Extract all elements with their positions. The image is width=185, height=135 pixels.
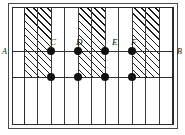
label-A: A xyxy=(2,47,7,56)
vertical-line-v5 xyxy=(91,8,92,124)
label-B: B xyxy=(177,47,182,56)
point-lower-3 xyxy=(101,73,109,81)
vertical-line-v6 xyxy=(105,8,106,124)
vertical-line-v11 xyxy=(172,8,173,124)
point-lower-2 xyxy=(74,73,82,81)
vertical-line-v9 xyxy=(145,8,146,124)
vertical-line-v1 xyxy=(37,8,38,124)
ruled-field xyxy=(13,8,173,124)
figure-canvas: C D E F A B xyxy=(0,0,185,135)
vertical-line-v2 xyxy=(51,8,52,124)
horizontal-line-lower xyxy=(13,77,173,78)
point-lower-1 xyxy=(47,73,55,81)
vertical-line-v7 xyxy=(118,8,119,124)
point-lower-4 xyxy=(128,73,136,81)
label-D: D xyxy=(76,38,83,47)
label-C: C xyxy=(50,38,56,47)
horizontal-line-AB xyxy=(13,51,173,52)
vertical-line-v0 xyxy=(24,8,25,124)
point-F xyxy=(128,47,136,55)
label-E: E xyxy=(112,38,118,47)
vertical-line-v10 xyxy=(159,8,160,124)
vertical-line-v4 xyxy=(78,8,79,124)
point-C xyxy=(47,47,55,55)
point-E xyxy=(101,47,109,55)
label-F: F xyxy=(131,38,137,47)
vertical-line-v8 xyxy=(132,8,133,124)
vertical-line-v3 xyxy=(64,8,65,124)
point-D xyxy=(74,47,82,55)
